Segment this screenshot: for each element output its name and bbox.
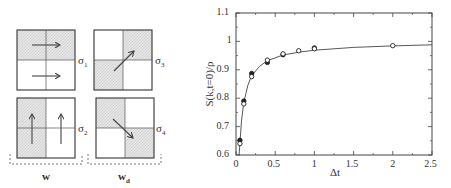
open-circle-point <box>391 43 395 47</box>
open-circle-point <box>242 102 246 106</box>
y-tick-label: 1.1 <box>216 6 229 17</box>
x-tick-label: 0 <box>233 158 238 169</box>
x-tick-label: 2.5 <box>424 158 437 169</box>
open-circle-point <box>297 49 301 53</box>
y-tick-label: 1 <box>227 34 232 45</box>
x-tick-label: 1.5 <box>346 158 359 169</box>
y-tick-label: 0.9 <box>216 63 229 74</box>
open-circle-point <box>249 74 253 78</box>
open-circle-point <box>312 47 316 51</box>
y-tick-label: 0.7 <box>216 120 229 131</box>
open-circle-point <box>238 141 242 145</box>
axis-ticks <box>236 13 432 155</box>
open-circle-point <box>281 52 285 56</box>
x-axis-label: Δt <box>330 166 340 178</box>
y-axis-label: S(k,t=0)/ρ <box>203 62 215 107</box>
plot-frame <box>236 13 432 155</box>
y-tick-label: 0.6 <box>216 148 229 159</box>
open-circle-point <box>265 58 269 62</box>
y-tick-label: 0.8 <box>216 91 229 102</box>
x-tick-label: 0.5 <box>267 158 280 169</box>
data-points <box>238 43 395 145</box>
x-tick-label: 1 <box>312 158 317 169</box>
x-tick-label: 2 <box>390 158 395 169</box>
